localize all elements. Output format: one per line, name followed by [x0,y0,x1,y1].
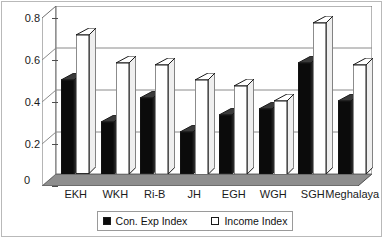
bars-layer [42,6,372,186]
x-axis-label: EKH [64,188,87,200]
bar-income-index [155,65,168,174]
bar-group [56,6,96,174]
x-axis-label: WKH [102,188,128,200]
bar-income-index [313,23,326,174]
y-tick-label: 0.4 [25,96,40,108]
bar-group [293,6,333,174]
y-tick-label: 0.8 [25,12,40,24]
bar-income-index [274,101,287,175]
bar-income-index [76,35,89,174]
bar-income-index [116,63,129,174]
x-axis-label: Meghalaya [325,188,379,200]
chart-frame: 0.8 0.6 0.4 0.2 0 EKHWKHRi-BJHEGHWGHSGHM… [1,1,382,237]
x-axis-labels: EKHWKHRi-BJHEGHWGHSGHMeghalaya [42,188,372,206]
bar-con-exp-index [338,101,351,175]
legend-item-income-index: Income Index [211,215,287,227]
legend-label: Con. Exp Index [116,215,188,227]
y-tick-label: 0.6 [25,54,40,66]
bar-con-exp-index [259,109,272,174]
legend-item-con-exp-index: Con. Exp Index [103,215,188,227]
x-axis-label: SGH [301,188,325,200]
y-tick-label-zero: 0 [24,174,30,186]
chart-legend: Con. Exp Index Income Index [97,211,293,231]
bar-group [214,6,254,174]
bar-con-exp-index [180,132,193,174]
y-tick-label: 0.2 [25,138,40,150]
bar-con-exp-index [61,80,74,175]
bar-income-index [234,86,247,174]
bar-income-index [353,65,366,174]
bar-group [333,6,373,174]
bar-con-exp-index [101,122,114,175]
bar-group [135,6,175,174]
bar-group [175,6,215,174]
bar-group [96,6,136,174]
bar-income-index [195,80,208,175]
bar-con-exp-index [219,115,232,174]
x-axis-label: WGH [260,188,287,200]
x-axis-label: Ri-B [144,188,165,200]
x-axis-label: JH [188,188,201,200]
legend-swatch-icon [103,217,111,225]
legend-swatch-icon [211,217,219,225]
plot-area: 0.8 0.6 0.4 0.2 [42,6,372,186]
bar-group [254,6,294,174]
y-tick [52,186,58,187]
x-axis-label: EGH [222,188,246,200]
bar-con-exp-index [140,98,153,174]
legend-label: Income Index [224,215,287,227]
bar-con-exp-index [298,63,311,174]
